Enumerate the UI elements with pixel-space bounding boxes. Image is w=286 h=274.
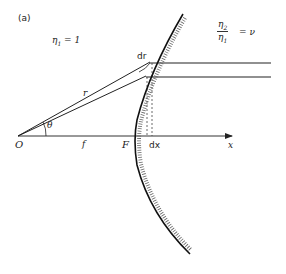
dx-label: dx xyxy=(149,141,160,150)
ratio-den-sub: 1 xyxy=(223,37,227,44)
ray-r-upper xyxy=(18,62,150,136)
ray-r-lower xyxy=(18,76,146,136)
ratio-num-sub: 2 xyxy=(223,24,227,31)
theta-label: θ xyxy=(47,121,52,130)
dr-label: dr xyxy=(137,52,146,61)
medium1-value: = 1 xyxy=(64,35,80,45)
index-ratio: η2 η1 xyxy=(217,19,228,44)
f-label: f xyxy=(82,140,85,149)
x-axis-label: x xyxy=(228,141,233,150)
optics-diagram xyxy=(0,0,286,274)
origin-label: O xyxy=(15,140,23,150)
focus-label: F xyxy=(122,140,129,150)
medium1-sub: 1 xyxy=(57,40,61,47)
ratio-rhs: = ν xyxy=(239,28,255,37)
panel-label: (a) xyxy=(18,14,31,23)
r-label: r xyxy=(83,89,87,98)
medium1-label: η1 = 1 xyxy=(52,36,80,47)
